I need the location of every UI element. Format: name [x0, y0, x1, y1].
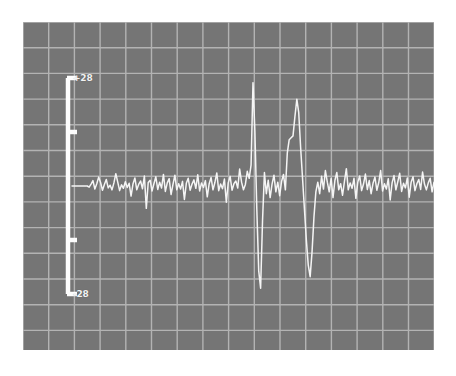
oscilloscope-figure: +28 -28 [0, 0, 456, 376]
amplitude-scalebar [23, 22, 434, 350]
scalebar-bottom-label: -28 [73, 290, 89, 299]
plot-area [23, 22, 434, 350]
scalebar-top-label: +28 [73, 74, 92, 83]
